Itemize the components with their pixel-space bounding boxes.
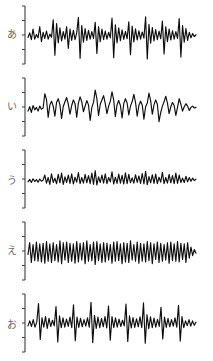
- waveform-panel: い: [0, 72, 213, 144]
- waveform-trace: [28, 17, 196, 59]
- waveform-trace: [28, 302, 196, 343]
- panel-label-e: え: [2, 246, 22, 256]
- waveform-figure: あ い う え お: [0, 0, 213, 361]
- waveform-trace: [28, 171, 196, 185]
- waveform-plot-e: [22, 216, 213, 288]
- waveform-panel: え: [0, 216, 213, 288]
- waveform-panel: あ: [0, 0, 213, 72]
- panel-label-a: あ: [2, 30, 22, 40]
- waveform-panel: う: [0, 144, 213, 216]
- waveform-plot-a: [22, 0, 213, 72]
- panel-label-o: お: [2, 320, 22, 330]
- waveform-plot-o: [22, 288, 213, 360]
- waveform-plot-u: [22, 144, 213, 216]
- panel-label-i: い: [2, 102, 22, 112]
- waveform-trace: [28, 241, 196, 265]
- waveform-trace: [28, 90, 196, 122]
- panel-label-u: う: [2, 176, 22, 186]
- waveform-plot-i: [22, 72, 213, 144]
- waveform-panel: お: [0, 288, 213, 360]
